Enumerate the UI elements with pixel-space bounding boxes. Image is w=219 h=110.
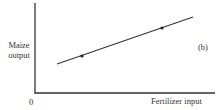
panel-label: (b) bbox=[198, 42, 208, 52]
x-axis-label: Fertilizer input bbox=[151, 96, 202, 106]
data-point-marker bbox=[160, 26, 163, 29]
y-axis-label: Maize output bbox=[4, 40, 34, 60]
y-axis-label-line1: Maize bbox=[4, 40, 34, 50]
series-line bbox=[57, 17, 193, 64]
y-axis-label-line2: output bbox=[4, 50, 34, 60]
origin-label: 0 bbox=[29, 97, 33, 107]
data-point-marker bbox=[80, 54, 83, 57]
